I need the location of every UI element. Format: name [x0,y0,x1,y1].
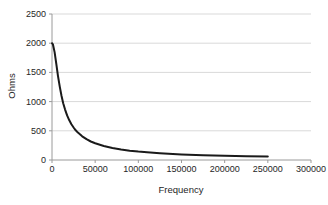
x-axis-title: Frequency [159,184,204,195]
ohms-vs-frequency-chart: Ohms 05000010000015000020000025000030000… [0,0,328,205]
x-tick-label: 300000 [296,164,326,174]
y-tick-label: 2000 [26,38,46,48]
y-tick-label: 500 [31,126,46,136]
y-tick-label: 0 [41,155,46,165]
y-tick-label: 2500 [26,9,46,19]
x-tick-label: 150000 [166,164,196,174]
x-tick-label: 200000 [210,164,240,174]
x-tick-label: 100000 [123,164,153,174]
plot-area: 0500001000001500002000002500003000000500… [0,0,328,205]
x-tick-label: 0 [49,164,54,174]
x-tick-label: 50000 [83,164,108,174]
x-tick-label: 250000 [253,164,283,174]
series-line [52,43,268,156]
y-tick-label: 1000 [26,97,46,107]
y-tick-label: 1500 [26,67,46,77]
